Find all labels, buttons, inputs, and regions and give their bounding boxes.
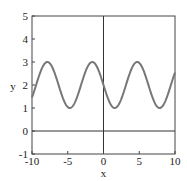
line-chart: -10-50510 -1012345 x y <box>0 0 187 181</box>
x-tick-label: 5 <box>137 155 143 167</box>
y-tick-label: 0 <box>23 125 29 137</box>
y-axis-ticks: -1012345 <box>19 10 35 160</box>
x-axis-label: x <box>101 167 107 179</box>
y-tick-label: -1 <box>19 148 28 160</box>
x-tick-label: -5 <box>63 155 73 167</box>
y-tick-label: 2 <box>23 79 29 91</box>
y-tick-label: 4 <box>23 33 29 45</box>
y-axis-label: y <box>10 80 16 92</box>
y-tick-label: 5 <box>23 10 29 22</box>
x-axis-ticks: -10-50510 <box>25 151 181 167</box>
x-tick-label: 10 <box>170 155 182 167</box>
x-tick-label: 0 <box>101 155 107 167</box>
y-tick-label: 1 <box>23 102 29 114</box>
y-tick-label: 3 <box>23 56 29 68</box>
